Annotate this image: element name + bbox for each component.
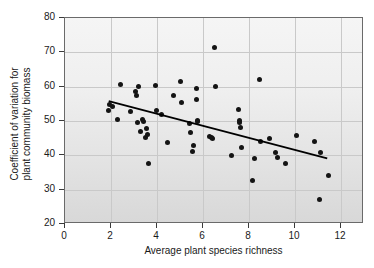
x-axis-tick-label: 8 — [233, 230, 263, 241]
trend-line — [65, 18, 363, 223]
y-axis-title-line2: plant community biomass — [21, 21, 33, 227]
x-axis-tick — [156, 223, 157, 228]
x-axis-tick-label: 10 — [279, 230, 309, 241]
y-axis-title: Coefficient of variation for plant commu… — [9, 21, 33, 227]
y-axis-tick — [59, 51, 64, 52]
y-axis-tick — [59, 120, 64, 121]
y-axis-tick — [59, 154, 64, 155]
plot-area — [64, 17, 363, 223]
x-axis-tick — [202, 223, 203, 228]
scatter-plot-figure: 20304050607080024681012 Average plant sp… — [0, 0, 374, 268]
x-axis-tick-label: 0 — [49, 230, 79, 241]
x-axis-tick — [340, 223, 341, 228]
x-axis-tick-label: 6 — [187, 230, 217, 241]
x-axis-tick-label: 2 — [95, 230, 125, 241]
x-axis-tick — [110, 223, 111, 228]
y-axis-tick — [59, 86, 64, 87]
x-axis-tick-label: 4 — [141, 230, 171, 241]
x-axis-tick — [294, 223, 295, 228]
trend-line-segment — [109, 101, 328, 158]
x-axis-tick — [64, 223, 65, 228]
y-axis-title-line1: Coefficient of variation for — [9, 21, 21, 227]
x-axis-tick — [248, 223, 249, 228]
y-axis-tick — [59, 17, 64, 18]
y-axis-tick — [59, 189, 64, 190]
x-axis-title: Average plant species richness — [64, 245, 363, 256]
x-axis-tick-label: 12 — [325, 230, 355, 241]
